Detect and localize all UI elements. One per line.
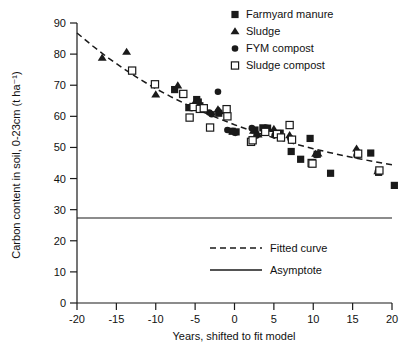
carbon-content-scatter-chart: Carbon content in soil, 0-23cm (t ha⁻¹) …	[0, 0, 408, 363]
data-point-marker	[249, 137, 256, 144]
legend-item-farmyard-manure: Farmyard manure	[231, 8, 333, 20]
x-tick-label: -5	[190, 313, 200, 325]
chart-figure: Carbon content in soil, 0-23cm (t ha⁻¹) …	[0, 0, 408, 363]
data-point-marker	[151, 81, 158, 88]
data-point-marker	[307, 135, 314, 142]
data-point-marker	[391, 182, 398, 189]
data-point-marker	[313, 152, 320, 159]
data-point-marker	[151, 90, 160, 97]
y-tick-label: 10	[54, 266, 66, 278]
data-point-marker	[297, 156, 304, 163]
legend-marker-open-square	[231, 62, 238, 69]
x-tick-label: 10	[307, 313, 319, 325]
data-point-marker	[288, 136, 295, 143]
data-point-marker	[223, 106, 230, 113]
data-point-marker	[288, 148, 295, 155]
x-axis-ticks: -20-15-10-505101520	[69, 303, 398, 325]
x-tick-label: -15	[108, 313, 124, 325]
data-point-marker	[249, 125, 256, 132]
legend-marker-filled-circle	[232, 45, 239, 52]
x-tick-label: -20	[69, 313, 85, 325]
x-tick-label: 0	[231, 313, 237, 325]
x-tick-label: 5	[271, 313, 277, 325]
y-tick-label: 30	[54, 204, 66, 216]
y-axis-ticks: 0102030405060708090	[54, 17, 77, 309]
legend-item-sludge: Sludge	[231, 25, 281, 37]
legend-marker-filled-square	[231, 11, 238, 18]
y-tick-label: 20	[54, 235, 66, 247]
legend-item-fym-compost: FYM compost	[232, 42, 314, 54]
data-point-marker	[286, 121, 293, 128]
data-point-marker	[180, 90, 187, 97]
line-legend-label: Fitted curve	[270, 242, 327, 254]
data-point-marker	[173, 81, 182, 88]
legend-item-label: Sludge compost	[246, 59, 325, 71]
y-tick-label: 70	[54, 79, 66, 91]
legend-item-label: Sludge	[246, 25, 280, 37]
data-point-marker	[262, 128, 269, 135]
data-point-marker	[367, 149, 374, 156]
y-tick-label: 90	[54, 17, 66, 29]
data-point-marker	[98, 54, 107, 61]
line-legend-item-asymptote: Asymptote	[210, 264, 322, 276]
data-point-marker	[355, 150, 362, 157]
series-fym-compost	[189, 88, 381, 175]
data-point-marker	[224, 113, 231, 120]
x-tick-label: 20	[386, 313, 398, 325]
data-point-marker	[200, 105, 207, 112]
y-axis-title: Carbon content in soil, 0-23cm (t ha⁻¹)	[10, 71, 22, 258]
x-tick-label: -10	[148, 313, 164, 325]
x-axis-title-text: Years, shifted to fit model	[172, 330, 295, 342]
data-point-marker	[206, 124, 213, 131]
y-tick-label: 80	[54, 48, 66, 60]
data-point-marker	[230, 128, 237, 135]
data-point-marker	[327, 170, 334, 177]
series-legend: Farmyard manureSludgeFYM compostSludge c…	[231, 8, 334, 71]
data-point-marker	[129, 67, 136, 74]
data-point-marker	[309, 160, 316, 167]
data-point-marker	[186, 114, 193, 121]
line-legend-item-fitted-curve: Fitted curve	[210, 242, 327, 254]
data-point-marker	[122, 48, 131, 55]
y-axis-title-text: Carbon content in soil, 0-23cm (t ha⁻¹)	[10, 71, 22, 258]
line-legend-label: Asymptote	[270, 264, 322, 276]
x-tick-label: 15	[347, 313, 359, 325]
y-tick-label: 60	[54, 110, 66, 122]
legend-item-label: FYM compost	[246, 42, 314, 54]
legend-item-label: Farmyard manure	[246, 8, 333, 20]
legend-marker-filled-triangle	[231, 27, 240, 34]
legend-item-sludge-compost: Sludge compost	[231, 59, 324, 71]
line-style-legend: Fitted curveAsymptote	[210, 242, 327, 276]
series-sludge-compost	[129, 67, 383, 174]
data-point-marker	[224, 127, 231, 134]
y-tick-label: 0	[60, 297, 66, 309]
y-tick-label: 50	[54, 141, 66, 153]
data-point-marker	[376, 167, 383, 174]
data-point-marker	[277, 134, 284, 141]
data-point-marker	[215, 88, 222, 95]
y-tick-label: 40	[54, 173, 66, 185]
